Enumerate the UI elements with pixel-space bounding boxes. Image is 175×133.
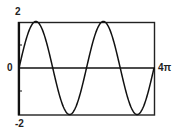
- y-max-label: 2: [15, 7, 21, 17]
- sine-plot: [0, 0, 175, 133]
- y-min-label: -2: [15, 119, 24, 129]
- y-zero-label: 0: [7, 63, 13, 73]
- x-max-label: 4π: [158, 63, 171, 73]
